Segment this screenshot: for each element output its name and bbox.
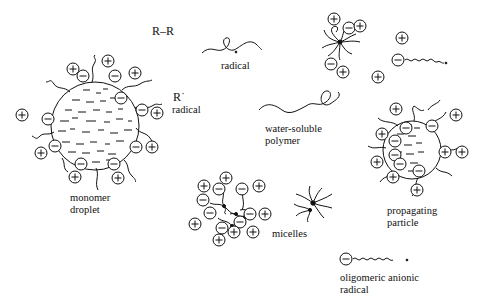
micelle-star [294,186,332,222]
droplet-charges [16,55,163,184]
water-soluble-label-line1: water-soluble [265,123,322,135]
oligomer-chain-top [392,54,447,66]
monomer-droplet-label-line2: droplet [70,204,100,216]
propagating-particle-label-line1: propagating [387,205,437,217]
initiator-label: R–R [152,25,174,37]
free-positive-ion [372,71,384,83]
water-soluble-polymer-squiggle [259,91,339,113]
primary-radical-label: radical [172,104,201,116]
monomer-droplet [16,55,163,190]
micelle-top [322,13,366,78]
diagram-graphics [0,0,481,308]
propagating-particle [368,100,468,196]
water-soluble-label-line2: polymer [265,135,300,147]
monomer-droplet-label-line1: monomer [70,192,110,204]
oligomeric-anionic-radical [340,253,408,265]
emulsion-polymerization-diagram: R–R R˙ radical radical water-soluble pol… [0,0,481,308]
micelles-label: micelles [272,228,307,240]
oligomeric-label-line1: oligomeric anionic [340,272,419,284]
primary-radical-symbol: R˙ [173,91,185,103]
oligomeric-label-line2: radical [340,284,369,296]
micelle-cluster [189,172,271,246]
radical-chain-squiggle [202,38,262,53]
propagating-particle-label-line2: particle [387,217,418,229]
radical-chain-label: radical [221,60,250,72]
free-positive-ion [396,32,408,44]
